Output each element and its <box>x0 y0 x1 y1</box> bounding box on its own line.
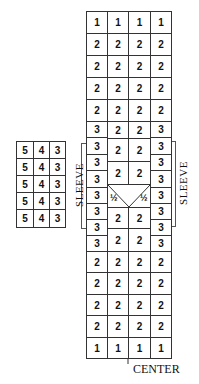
main-grid-cell: 1 <box>86 337 108 359</box>
right-sleeve-bracket <box>172 141 176 227</box>
main-grid-cell: 2 <box>107 251 129 273</box>
main-grid-cell: 2 <box>107 315 129 338</box>
main-grid-cell: 2 <box>86 315 108 338</box>
main-grid-cell: 2 <box>128 294 151 316</box>
main-grid-cell: 2 <box>86 294 108 316</box>
main-grid-cell: 2 <box>128 272 151 295</box>
main-grid-cell: 2 <box>150 315 172 338</box>
main-grid-cell: 2 <box>107 294 129 316</box>
left-sleeve-label: SLEEVE <box>73 155 85 215</box>
main-grid-cell: 2 <box>128 315 151 338</box>
right-sleeve-label: SLEEVE <box>177 153 189 213</box>
main-grid-cell: 2 <box>86 272 108 295</box>
main-grid-cell: 2 <box>150 294 172 316</box>
main-grid-cell: 1 <box>150 337 172 359</box>
main-grid-cell: 2 <box>150 272 172 295</box>
main-grid-cell: 2 <box>150 251 172 273</box>
main-grid-cell: 2 <box>128 251 151 273</box>
main-grid-cell: 1 <box>128 337 151 359</box>
center-label: CENTER <box>133 362 180 377</box>
main-grid-cell: 2 <box>86 251 108 273</box>
main-grid-cell: 2 <box>107 272 129 295</box>
main-grid-cell: 1 <box>107 337 129 359</box>
